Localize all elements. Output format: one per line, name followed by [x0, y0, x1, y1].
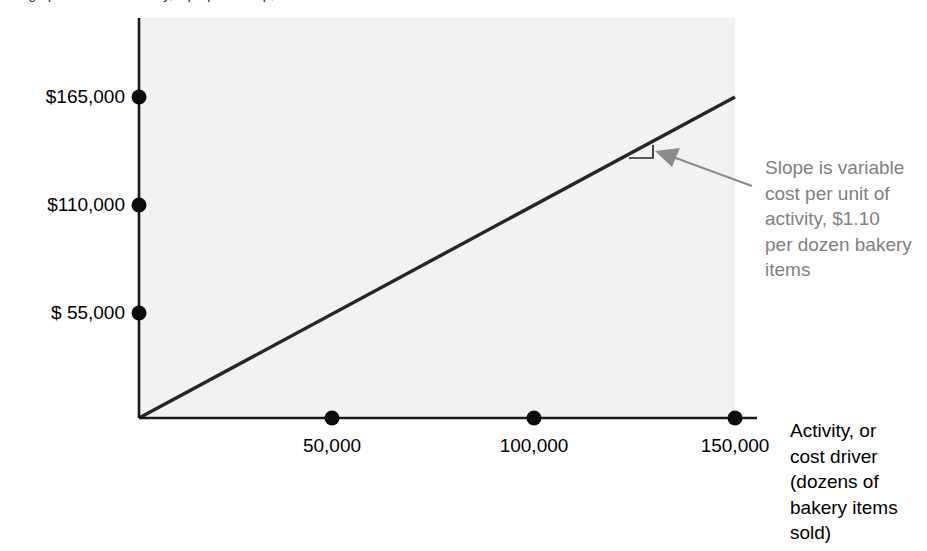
slope-callout-arrow-icon — [655, 148, 752, 186]
slope-annotation-line: per dozen bakery — [765, 232, 927, 258]
x-axis-caption-line: Activity, or — [790, 418, 927, 444]
x-axis-caption-line: sold) — [790, 520, 927, 546]
x-tick-dot-50000 — [325, 411, 340, 426]
slope-annotation-line: Slope is variable — [765, 155, 927, 181]
x-tick-dot-100000 — [527, 411, 542, 426]
y-axis-tick-label: $110,000 — [47, 195, 125, 214]
y-tick-dot-55000 — [132, 306, 147, 321]
x-axis-caption-line: bakery items — [790, 495, 927, 521]
x-axis-tick-label: 100,000 — [464, 436, 604, 455]
x-axis-tick-label: 50,000 — [262, 436, 402, 455]
slope-annotation-line: items — [765, 257, 927, 283]
x-axis-caption: Activity, or cost driver (dozens of bake… — [790, 418, 927, 546]
x-axis-caption-line: cost driver — [790, 444, 927, 470]
cost-behavior-chart: $165,000 $110,000 $ 55,000 50,000 100,00… — [0, 0, 927, 551]
total-cost-line — [139, 97, 735, 418]
y-tick-dot-165000 — [132, 90, 147, 105]
slope-annotation-line: activity, $1.10 — [765, 206, 927, 232]
slope-annotation: Slope is variable cost per unit of activ… — [765, 155, 927, 283]
slope-annotation-line: cost per unit of — [765, 181, 927, 207]
x-tick-dot-150000 — [728, 411, 743, 426]
y-tick-dot-110000 — [132, 198, 147, 213]
y-axis-tick-label: $165,000 — [46, 87, 125, 106]
x-axis-caption-line: (dozens of — [790, 469, 927, 495]
y-axis-tick-label: $ 55,000 — [51, 303, 125, 322]
x-axis-tick-label: 150,000 — [665, 436, 805, 455]
